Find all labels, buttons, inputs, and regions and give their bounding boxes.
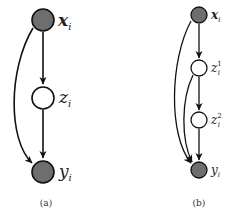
node-z-latent (32, 87, 54, 109)
node-y-observed (191, 162, 207, 178)
node-z2-latent (191, 112, 207, 128)
label-z2: z2i (210, 112, 222, 129)
panel-b: xi z1i z2i yi (b) (174, 7, 221, 208)
panel-a: xi zi yi (a) (14, 9, 72, 208)
caption-b: (b) (193, 198, 206, 208)
label-y: yi (58, 161, 72, 183)
caption-a: (a) (40, 198, 52, 208)
label-y: yi (210, 163, 220, 179)
label-z1: z1i (210, 60, 222, 77)
label-z: zi (58, 87, 71, 109)
edge-x-to-y (174, 21, 191, 163)
node-z1-latent (191, 60, 207, 76)
edge-x-to-y (14, 28, 33, 163)
node-x-observed (191, 7, 207, 23)
label-x: xi (210, 8, 220, 24)
label-x: xi (57, 10, 71, 32)
node-x-observed (32, 9, 54, 31)
graphical-model-figure: xi zi yi (a) xi z1i z2i yi (b) (0, 0, 236, 214)
node-y-observed (32, 161, 54, 183)
